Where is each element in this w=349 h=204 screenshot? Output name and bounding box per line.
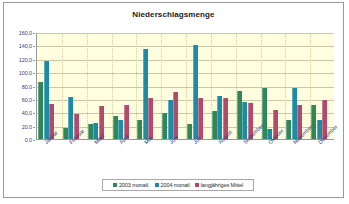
bar[interactable] [242,102,247,139]
bar[interactable] [311,105,316,139]
x-axis: JanuarFebruarMärzAprilMaiJuniJuliAugustS… [36,141,334,175]
legend-swatch-icon [155,183,159,187]
legend-swatch-icon [113,183,117,187]
y-axis-tick-mark [33,87,35,88]
bar[interactable] [44,61,49,139]
plot-area [36,33,334,140]
y-axis-tick-label: 0,0 [25,137,32,143]
y-axis-tick-label: 120,0 [19,57,32,63]
bar[interactable] [193,45,198,139]
bar[interactable] [198,98,203,139]
legend-label: langjähriges Mittel [201,182,243,188]
bar[interactable] [262,88,267,139]
y-axis-tick-label: 160,0 [19,30,32,36]
bar-group [87,33,112,139]
y-axis-tick-label: 20,0 [22,124,32,130]
legend-swatch-icon [195,183,199,187]
bar[interactable] [68,97,73,139]
y-axis-tick-mark [33,46,35,47]
bar[interactable] [292,88,297,139]
bar[interactable] [286,120,291,139]
bar[interactable] [212,111,217,139]
bar[interactable] [148,98,153,139]
y-axis-tick-label: 80,0 [22,84,32,90]
bar[interactable] [173,92,178,139]
bar-group [261,33,286,139]
bar-group [161,33,186,139]
legend-item[interactable]: 2003 monatl. [113,182,150,188]
y-axis-tick-mark [33,73,35,74]
bar[interactable] [63,128,68,139]
y-axis-tick-mark [33,60,35,61]
legend-item[interactable]: langjähriges Mittel [195,182,243,188]
chart-legend: 2003 monatl.2004 monatllangjähriges Mitt… [102,179,254,191]
bar-group [136,33,161,139]
bar[interactable] [137,120,142,139]
bar[interactable] [237,91,242,139]
y-axis: 0,020,040,060,080,0100,0120,0140,0160,0 [5,33,34,140]
y-axis-tick-mark [33,140,35,141]
y-axis-tick-label: 100,0 [19,70,32,76]
y-axis-tick-mark [33,33,35,34]
bar-group [211,33,236,139]
bar[interactable] [168,100,173,139]
y-axis-tick-label: 40,0 [22,110,32,116]
chart-frame: Niederschlagsmenge 0,020,040,060,080,010… [3,2,344,198]
bar-group [236,33,261,139]
bar[interactable] [187,124,192,139]
bar[interactable] [88,124,93,139]
bar[interactable] [143,49,148,139]
bar[interactable] [217,96,222,139]
y-axis-tick-label: 60,0 [22,97,32,103]
legend-label: 2004 monatl [161,182,190,188]
y-axis-tick-mark [33,100,35,101]
legend-item[interactable]: 2004 monatl [155,182,190,188]
bar-group [37,33,62,139]
bar-group [62,33,87,139]
bar-group [310,33,335,139]
y-axis-tick-mark [33,113,35,114]
bar-group [112,33,137,139]
y-axis-tick-mark [33,127,35,128]
chart-title: Niederschlagsmenge [4,10,343,19]
bar-group [285,33,310,139]
bar[interactable] [113,116,118,139]
y-axis-tick-label: 140,0 [19,43,32,49]
bar[interactable] [162,113,167,139]
bar-group [186,33,211,139]
legend-label: 2003 monatl. [119,182,150,188]
bar[interactable] [38,82,43,139]
